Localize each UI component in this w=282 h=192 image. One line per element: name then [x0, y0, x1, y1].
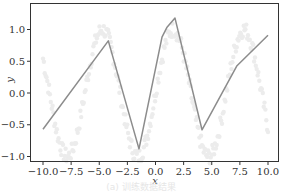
scatter-point — [45, 79, 49, 83]
scatter-point — [225, 88, 229, 92]
scatter-point — [144, 143, 148, 147]
x-tick-label: −5.0 — [87, 166, 111, 177]
scatter-point — [264, 118, 268, 122]
scatter-point — [149, 124, 153, 128]
scatter-point — [147, 129, 151, 133]
scatter-point — [257, 79, 261, 83]
scatter-point — [217, 135, 221, 139]
scatter-point — [243, 27, 247, 31]
scatter-point — [77, 126, 81, 130]
line-chart: −10.0−7.5−5.0−2.50.02.55.07.510.0 1.00.5… — [0, 0, 282, 192]
scatter-point — [61, 143, 65, 147]
x-tick-label: −2.5 — [115, 166, 139, 177]
scatter-point — [263, 107, 267, 111]
scatter-point — [50, 104, 54, 108]
scatter-point — [76, 131, 80, 135]
scatter-point — [151, 106, 155, 110]
x-tick-label: −10.0 — [28, 166, 59, 177]
y-tick-label: −1.0 — [1, 151, 25, 162]
scatter-point — [246, 33, 250, 37]
scatter-point — [117, 91, 121, 95]
scatter-point — [162, 46, 166, 50]
scatter-point — [83, 88, 87, 92]
scatter-point — [44, 75, 48, 79]
scatter-point — [196, 126, 200, 130]
scatter-point — [42, 60, 46, 64]
scatter-point — [141, 156, 145, 160]
scatter-point — [156, 77, 160, 81]
scatter-point — [223, 99, 227, 103]
x-tick-label: 5.0 — [204, 166, 220, 177]
scatter-point — [128, 145, 132, 149]
y-axis-label: y — [4, 77, 15, 84]
y-axis-ticks: 1.00.50.0−0.5−1.0 — [1, 24, 31, 162]
scatter-point — [107, 31, 111, 35]
scatter-point — [123, 112, 127, 116]
scatter-point — [94, 40, 98, 44]
scatter-point — [261, 91, 265, 95]
scatter-point — [266, 130, 270, 134]
x-tick-label: 7.5 — [232, 166, 248, 177]
scatter-point — [155, 91, 159, 95]
y-tick-label: 0.5 — [9, 56, 25, 67]
x-tick-label: 10.0 — [257, 166, 279, 177]
scatter-point — [79, 115, 83, 119]
scatter-point — [56, 136, 60, 140]
scatter-point — [262, 100, 266, 104]
scatter-point — [53, 122, 57, 126]
scatter-point — [126, 131, 130, 135]
scatter-point — [260, 87, 264, 91]
scatter-point — [253, 55, 257, 59]
scatter-point — [90, 52, 94, 56]
y-tick-label: 1.0 — [9, 24, 25, 35]
scatter-point — [231, 55, 235, 59]
scatter-point — [48, 92, 52, 96]
scatter-point — [235, 45, 239, 49]
scatter-point — [251, 43, 255, 47]
scatter-point — [74, 141, 78, 145]
scatter-point — [161, 60, 165, 64]
x-tick-label: 2.5 — [176, 166, 192, 177]
scatter-point — [71, 149, 75, 153]
scatter-point — [82, 101, 86, 105]
scatter-point — [47, 83, 51, 87]
scatter-point — [164, 41, 168, 45]
scatter-point — [153, 99, 157, 103]
scatter-point — [129, 139, 133, 143]
scatter-point — [58, 148, 62, 152]
scatter-point — [146, 137, 150, 141]
x-tick-label: −7.5 — [59, 166, 83, 177]
scatter-point — [230, 60, 234, 64]
scatter-point — [87, 72, 91, 76]
scatter-point — [256, 70, 260, 74]
scatter-point — [244, 22, 248, 26]
scatter-point — [78, 109, 82, 113]
scatter-point — [86, 78, 90, 82]
scatter-point — [108, 35, 112, 39]
scatter-point — [121, 105, 125, 109]
scatter-point — [234, 49, 238, 53]
scatter-point — [69, 156, 73, 160]
y-tick-label: 0.0 — [9, 88, 25, 99]
scatter-points — [41, 21, 270, 165]
scatter-point — [150, 112, 154, 116]
scatter-point — [132, 157, 136, 161]
scatter-point — [222, 110, 226, 114]
plot-frame — [31, 4, 279, 162]
figure-caption: (a) 训练数据结果 — [0, 180, 282, 192]
scatter-point — [156, 80, 160, 84]
y-tick-label: −0.5 — [1, 119, 25, 130]
scatter-point — [212, 152, 216, 156]
scatter-point — [252, 59, 256, 63]
scatter-point — [215, 143, 219, 147]
scatter-point — [220, 122, 224, 126]
scatter-point — [241, 35, 245, 39]
scatter-point — [125, 122, 129, 126]
scatter-point — [229, 67, 233, 71]
scatter-point — [97, 24, 101, 28]
scatter-point — [158, 71, 162, 75]
scatter-point — [63, 147, 67, 151]
scatter-point — [199, 134, 203, 138]
scatter-point — [55, 127, 59, 131]
